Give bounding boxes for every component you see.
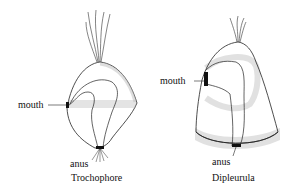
dipleurula-caption: Dipleurula [212, 173, 255, 183]
dipleurula-anus-label: anus [212, 157, 230, 167]
trochophore-figure [48, 10, 137, 162]
trochophore-mouth-label: mouth [18, 100, 44, 110]
apical-tuft [86, 10, 110, 62]
dipleurula-mouth-label: mouth [160, 76, 186, 86]
larvae-diagram [0, 0, 288, 195]
trochophore-caption: Trochophore [71, 173, 122, 183]
prototroch-band [68, 100, 136, 108]
dipleurula-figure [194, 16, 280, 156]
trochophore-anus-label: anus [70, 159, 88, 169]
